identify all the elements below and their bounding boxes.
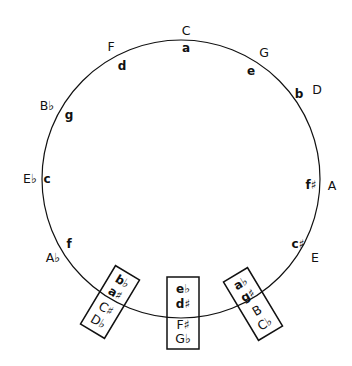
- major-key-label: E: [311, 250, 319, 265]
- enharmonic-box-right: a♭ g♯ B C♭: [223, 268, 282, 341]
- enharmonic-label: d♯: [176, 297, 190, 311]
- enharmonic-box-middle: e♭ d♯ F♯ G♭: [167, 277, 199, 349]
- minor-key-label: c♯: [292, 237, 305, 251]
- minor-key-label: d: [118, 59, 127, 73]
- minor-key-label: b: [295, 87, 304, 101]
- minor-key-label: c: [43, 172, 50, 186]
- major-key-label: A♭: [46, 250, 60, 265]
- minor-key-label: f♯: [305, 178, 316, 192]
- major-key-label: B♭: [40, 98, 54, 113]
- major-key-label: D: [312, 82, 322, 97]
- enharmonic-label: e♭: [176, 282, 190, 296]
- enharmonic-label: G♭: [175, 331, 191, 346]
- major-key-label: F: [107, 39, 114, 54]
- minor-key-label: a: [182, 41, 190, 55]
- minor-key-label: f: [66, 237, 72, 251]
- diagram-canvas: C a G e D b A f♯ E c♯ B♭ g E♭ c A♭ f F d: [0, 0, 352, 366]
- key-labels: C a G e D b A f♯ E c♯ B♭ g E♭ c A♭ f F d: [23, 23, 337, 265]
- enharmonic-box-left: b♭ a♯ C♯ D♭: [80, 266, 139, 339]
- enharmonic-label: F♯: [176, 317, 189, 332]
- minor-key-label: e: [247, 64, 255, 78]
- circle-of-fifths-diagram: C a G e D b A f♯ E c♯ B♭ g E♭ c A♭ f F d: [0, 0, 352, 366]
- major-key-label: C: [182, 23, 191, 38]
- major-key-label: G: [259, 45, 269, 60]
- major-key-label: E♭: [23, 171, 37, 186]
- major-key-label: A: [328, 178, 337, 193]
- minor-key-label: g: [65, 108, 74, 122]
